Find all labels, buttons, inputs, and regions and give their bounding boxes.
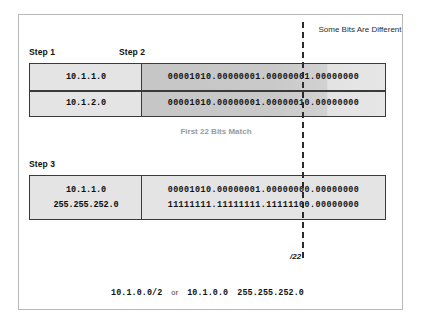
step-1-label: Step 1: [29, 47, 55, 57]
table-row: 10.1.2.0: [30, 98, 142, 108]
summary-prefix-notation: 10.1.0.0/2: [111, 288, 162, 298]
table-address-column: [30, 176, 142, 219]
table-row: 255.255.252.0: [30, 200, 142, 210]
table-binary-column: [142, 176, 385, 219]
summary-conjunction: or: [171, 288, 178, 297]
some-bits-different-note: Some Bits Are Different: [312, 24, 408, 35]
subnet-summarization-figure: Step 1 Step 2 Step 3 Some Bits Are Diffe…: [0, 0, 422, 324]
step-2-label: Step 2: [119, 47, 145, 57]
summary-result-line: 10.1.0.0/2or10.1.0.0255.255.252.0: [29, 288, 386, 298]
first-bits-match-caption: First 22 Bits Match: [130, 127, 302, 136]
summary-mask: 255.255.252.0: [237, 288, 304, 298]
prefix-length-marker: /22: [290, 252, 301, 261]
step-3-label: Step 3: [29, 159, 55, 169]
table-row: 10.1.1.0: [30, 72, 142, 82]
table-row: 10.1.1.0: [30, 185, 142, 195]
table-row: 00001010.00000001.00000001.00000000: [142, 72, 385, 82]
table-row: 00001010.00000001.00000010.00000000: [142, 98, 385, 108]
summary-address-mask-table: 10.1.1.0 00001010.00000001.00000000.0000…: [29, 175, 386, 220]
table-row: 11111111.11111111.11111100.00000000: [142, 200, 385, 210]
table-row-divider: [30, 90, 385, 92]
figure-outer-frame: [18, 14, 403, 310]
prefix-boundary-dashed-line: [302, 22, 304, 258]
summary-address: 10.1.0.0: [187, 288, 228, 298]
table-row: 00001010.00000001.00000000.00000000: [142, 185, 385, 195]
address-comparison-table: 10.1.1.0 00001010.00000001.00000001.0000…: [29, 63, 386, 117]
